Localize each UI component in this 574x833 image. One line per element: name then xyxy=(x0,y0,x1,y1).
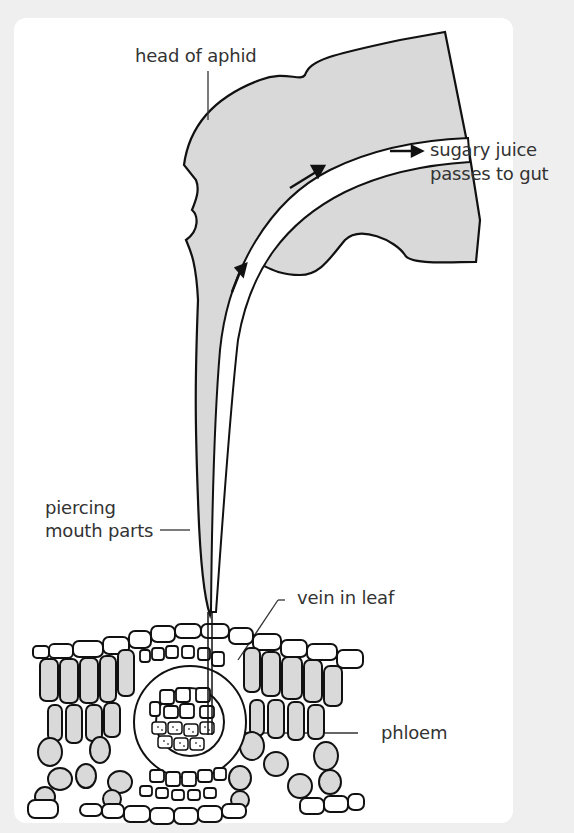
label-vein-in-leaf: vein in leaf xyxy=(297,587,394,609)
leaf-cross-section xyxy=(28,612,364,824)
label-phloem: phloem xyxy=(381,722,447,744)
label-sugary-juice: sugary juice xyxy=(430,139,537,161)
label-mouth-parts: mouth parts xyxy=(45,520,153,542)
label-passes-to-gut: passes to gut xyxy=(430,163,548,185)
label-piercing: piercing xyxy=(45,497,116,519)
lower-bundle-sheath xyxy=(140,768,226,800)
label-head-of-aphid: head of aphid xyxy=(135,45,256,67)
aphid-phloem-diagram xyxy=(0,0,574,833)
